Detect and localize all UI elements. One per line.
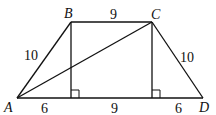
length-label-CD: 10 — [180, 50, 194, 65]
vertex-label-C: C — [151, 7, 161, 22]
vertex-label-D: D — [198, 100, 209, 115]
right-angle-marker-C — [152, 90, 160, 98]
right-angle-marker-B — [71, 90, 79, 98]
length-label-BC: 9 — [110, 7, 117, 22]
vertex-label-B: B — [64, 6, 73, 21]
length-label-A-foot: 6 — [41, 101, 48, 115]
length-label-AB: 10 — [24, 48, 38, 63]
length-label-middle: 9 — [111, 101, 118, 115]
length-label-foot-D: 6 — [175, 101, 182, 115]
side-CD — [152, 22, 203, 98]
trapezoid-diagram: A B C D 10 9 10 6 9 6 — [0, 0, 216, 115]
vertex-label-A: A — [3, 100, 13, 115]
